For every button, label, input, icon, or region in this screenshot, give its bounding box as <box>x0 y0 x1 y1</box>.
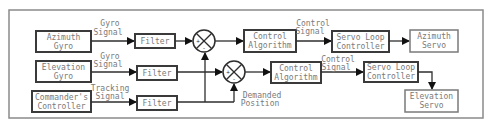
demanded-position-line2: Position <box>241 99 280 108</box>
summing-junction-1: + - <box>193 30 215 52</box>
control-signal-2-line2: Signal <box>322 63 351 72</box>
control-algorithm-1-line1: Control <box>253 32 287 41</box>
filter-3-label: Filter <box>143 99 172 108</box>
elevation-servo-line1: Elevation <box>410 92 454 101</box>
elevation-gyro-label-line2: Gyro <box>54 72 73 81</box>
commanders-controller-label-line1: Commander's <box>35 93 88 102</box>
servo-loop-controller-block-2: Servo Loop Controller <box>364 62 418 82</box>
servo-loop-controller-2-line2: Controller <box>367 72 415 81</box>
control-algorithm-2-line1: Control <box>279 64 313 73</box>
elevation-gyro-block: Elevation Gyro <box>36 61 91 82</box>
control-algorithm-block-2: Control Algorithm <box>271 62 321 83</box>
sum2-minus-sign: - <box>232 75 236 82</box>
sum2-plus-sign: + <box>226 68 230 75</box>
azimuth-gyro-label-line2: Gyro <box>54 42 73 51</box>
filter-block-3: Filter <box>137 96 177 110</box>
tracking-signal-line2: Signal <box>96 92 125 101</box>
filter-1-label: Filter <box>141 37 170 46</box>
azimuth-gyro-block: Azimuth Gyro <box>36 31 91 52</box>
elevation-servo-line2: Servo <box>419 101 443 110</box>
commanders-controller-block: Commander's Controller <box>32 91 91 112</box>
azimuth-gyro-label-line1: Azimuth <box>47 33 81 42</box>
azimuth-servo-line1: Azimuth <box>417 32 451 41</box>
filter-block-1: Filter <box>135 34 175 48</box>
elevation-servo-block: Elevation Servo <box>405 90 458 112</box>
elevation-gyro-label-line1: Elevation <box>42 63 86 72</box>
commanders-controller-label-line2: Controller <box>37 102 85 111</box>
summing-junction-2: + - <box>223 61 245 83</box>
filter-2-label: Filter <box>143 69 172 78</box>
sum1-plus-sign: + <box>196 37 200 44</box>
control-algorithm-2-line2: Algorithm <box>274 73 318 82</box>
gyro-signal-1-line1: Gyro <box>100 19 119 28</box>
sum1-minus-sign: - <box>202 44 206 51</box>
servo-loop-controller-1-line2: Controller <box>336 42 384 51</box>
control-algorithm-block-1: Control Algorithm <box>244 30 296 52</box>
control-block-diagram: Azimuth Gyro Elevation Gyro Commander's … <box>0 0 491 126</box>
servo-loop-controller-1-line1: Servo Loop <box>336 33 384 42</box>
servo-loop-controller-2-line1: Servo Loop <box>367 63 415 72</box>
control-algorithm-1-line2: Algorithm <box>248 41 292 50</box>
gyro-signal-1-line2: Signal <box>94 28 123 37</box>
azimuth-servo-line2: Servo <box>422 41 446 50</box>
azimuth-servo-block: Azimuth Servo <box>410 30 458 52</box>
gyro-signal-2-line2: Signal <box>94 60 123 69</box>
control-signal-1-line2: Signal <box>296 27 325 36</box>
filter-block-2: Filter <box>137 66 177 80</box>
servo-loop-controller-block-1: Servo Loop Controller <box>332 31 389 52</box>
